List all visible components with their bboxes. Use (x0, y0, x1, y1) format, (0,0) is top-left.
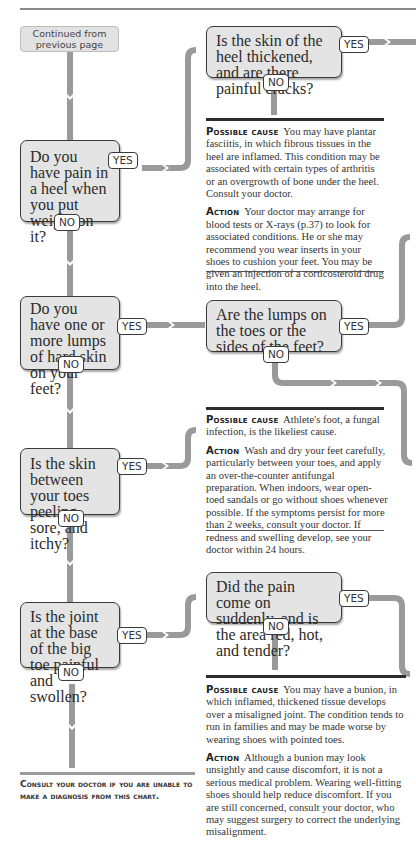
result-athletes-foot: Possible cause Athlete's foot, a fungal … (206, 414, 388, 562)
action-label: Action (206, 445, 239, 456)
footer-rule (20, 772, 195, 775)
consult-doctor-note: Consult your doctor if you are unable to… (20, 778, 200, 802)
yes-button[interactable]: YES (108, 152, 138, 169)
no-button[interactable]: NO (263, 618, 289, 635)
connector-q4a-yes (365, 598, 410, 674)
question-box-lump-location: Are the lumps on the toes or the sides o… (206, 300, 342, 352)
connector-q1-yes (142, 50, 196, 168)
yes-button[interactable]: YES (339, 318, 369, 335)
question-box-heel-pain: Do you have pain in a heel when you put … (20, 140, 120, 222)
action-label: Action (206, 752, 239, 763)
start-label: Continued from previous page (33, 28, 107, 50)
question-box-toe-skin: Is the skin between your toes peeling, s… (20, 448, 120, 515)
action-label: Action (206, 206, 239, 217)
action-text: Your doctor may arrange for blood tests … (206, 206, 384, 291)
no-button[interactable]: NO (58, 664, 84, 681)
result-end-rule (206, 530, 384, 531)
yes-button[interactable]: YES (339, 36, 369, 53)
action-text: Wash and dry your feet carefully, partic… (206, 445, 388, 555)
no-button[interactable]: NO (58, 356, 84, 373)
no-button[interactable]: NO (263, 74, 289, 91)
result-rule (206, 118, 384, 121)
question-box-heel-skin: Is the skin of the heel thickened, and a… (206, 26, 342, 78)
result-rule (206, 407, 384, 410)
question-box-big-toe: Is the joint at the base of the big toe … (20, 602, 120, 668)
yes-button[interactable]: YES (117, 627, 147, 644)
result-end-rule (206, 271, 384, 272)
result-plantar-fasciitis: Possible cause You may have plantar fasc… (206, 126, 386, 299)
result-bunion: Possible cause You may have a bunion, in… (206, 684, 406, 841)
yes-button[interactable]: YES (339, 590, 369, 607)
no-button[interactable]: NO (263, 346, 289, 363)
cause-label: Possible cause (206, 126, 278, 137)
no-button[interactable]: NO (58, 510, 84, 527)
question-box-sudden-pain: Did the pain come on suddenly, and is th… (206, 572, 342, 623)
yes-button[interactable]: YES (117, 318, 147, 335)
action-text: Although a bunion may look unsightly and… (206, 752, 401, 837)
cause-label: Possible cause (206, 684, 278, 695)
yes-button[interactable]: YES (117, 458, 147, 475)
cause-label: Possible cause (206, 414, 278, 425)
result-rule (206, 675, 406, 678)
connector-q4-yes (142, 597, 196, 635)
no-button[interactable]: NO (54, 214, 80, 231)
connector-q3-yes (142, 430, 196, 466)
start-box: Continued from previous page (20, 26, 119, 52)
